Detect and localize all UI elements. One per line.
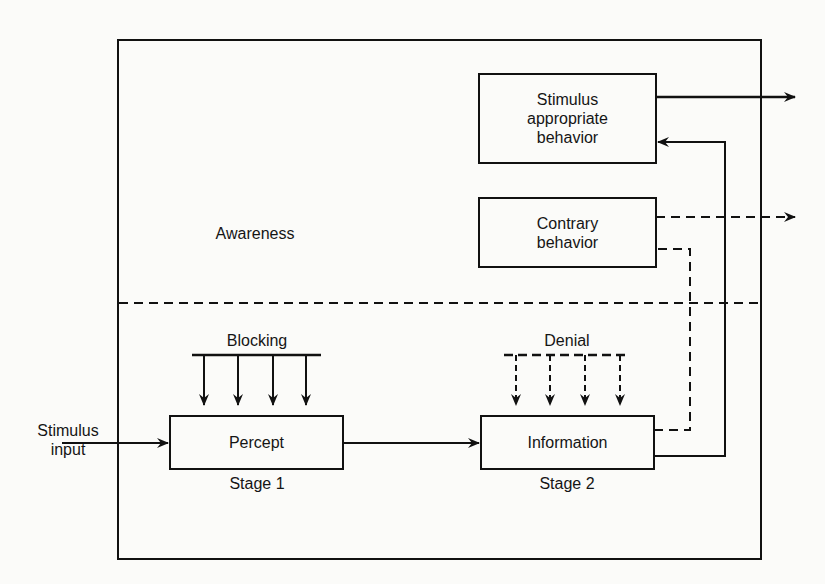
contrary-line2: behavior: [537, 233, 598, 252]
stimulus-input-line2: input: [51, 440, 86, 459]
awareness-label: Awareness: [205, 224, 305, 243]
information-label: Information: [481, 416, 654, 469]
information-to-contrary-path: [654, 249, 690, 430]
diagram-canvas: [0, 0, 825, 584]
stimulus-appropriate-line3: behavior: [537, 128, 598, 147]
denial-label: Denial: [517, 331, 617, 350]
stage2-label: Stage 2: [517, 474, 617, 493]
blocking-filter: [192, 355, 321, 405]
contrary-line1: Contrary: [537, 214, 598, 233]
blocking-label: Blocking: [207, 331, 307, 350]
stage1-label: Stage 1: [207, 474, 307, 493]
stimulus-input-line1: Stimulus: [37, 421, 98, 440]
denial-filter: [504, 355, 630, 405]
percept-label: Percept: [170, 416, 343, 469]
stimulus-input-label: Stimulus input: [22, 415, 114, 465]
stimulus-appropriate-line1: Stimulus: [537, 90, 598, 109]
stimulus-appropriate-label: Stimulus appropriate behavior: [479, 74, 656, 163]
stimulus-appropriate-line2: appropriate: [527, 109, 608, 128]
contrary-label: Contrary behavior: [479, 198, 656, 267]
